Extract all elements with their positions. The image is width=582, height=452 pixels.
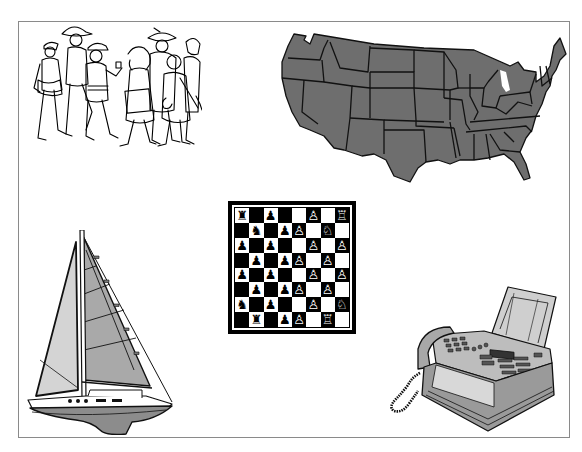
sailboat-illustration: [26, 230, 178, 435]
chess-square: ♙: [335, 268, 349, 283]
chess-piece-icon: ♙: [308, 239, 320, 252]
chess-square: [306, 282, 320, 297]
chess-square: [235, 282, 249, 297]
chess-piece-icon: ♘: [336, 298, 348, 311]
chess-square: ♜: [249, 312, 263, 327]
chess-square: [321, 297, 335, 312]
chess-piece-icon: ♟: [251, 254, 263, 267]
chess-square: [292, 297, 306, 312]
chess-square: ♜: [235, 208, 249, 223]
chess-square: [249, 268, 263, 283]
chess-piece-icon: ♟: [265, 239, 277, 252]
chess-piece-icon: ♟: [236, 268, 248, 281]
chess-square: ♖: [321, 312, 335, 327]
chess-square: ♟: [235, 268, 249, 283]
chess-piece-icon: ♙: [308, 209, 320, 222]
chess-piece-icon: ♟: [265, 298, 277, 311]
chess-square: [264, 282, 278, 297]
chess-square: [306, 253, 320, 268]
chessboard-grid: ♜♟♙♖♞♟♙♘♟♟♙♙♟♟♙♙♟♟♙♙♟♟♙♙♞♟♙♘♜♟♙♖: [234, 207, 350, 328]
chess-square: ♙: [306, 297, 320, 312]
chess-piece-icon: ♟: [236, 239, 248, 252]
chess-square: [321, 208, 335, 223]
chess-piece-icon: ♙: [308, 268, 320, 281]
chess-square: ♙: [292, 282, 306, 297]
people-illustration: [30, 24, 202, 152]
chess-piece-icon: ♙: [293, 224, 305, 237]
chess-square: ♟: [264, 208, 278, 223]
chess-square: ♙: [306, 208, 320, 223]
chess-square: ♟: [264, 297, 278, 312]
chess-square: [249, 208, 263, 223]
chess-square: ♟: [235, 238, 249, 253]
chess-square: ♟: [278, 223, 292, 238]
chess-piece-icon: ♟: [279, 224, 291, 237]
chess-square: ♟: [249, 282, 263, 297]
chess-square: [278, 208, 292, 223]
chess-piece-icon: ♙: [293, 283, 305, 296]
chess-square: ♖: [335, 208, 349, 223]
chess-square: [278, 297, 292, 312]
chess-piece-icon: ♟: [279, 283, 291, 296]
chess-square: ♟: [278, 312, 292, 327]
chess-square: ♙: [292, 312, 306, 327]
chess-square: [278, 268, 292, 283]
chess-square: [306, 312, 320, 327]
chess-square: ♟: [278, 253, 292, 268]
chess-square: [235, 312, 249, 327]
chess-square: [292, 238, 306, 253]
chess-square: ♟: [264, 238, 278, 253]
chess-square: [335, 312, 349, 327]
chess-piece-icon: ♙: [322, 254, 334, 267]
chessboard-illustration: ♜♟♙♖♞♟♙♘♟♟♙♙♟♟♙♙♟♟♙♙♟♟♙♙♞♟♙♘♜♟♙♖: [228, 201, 356, 334]
chess-piece-icon: ♙: [322, 283, 334, 296]
chess-square: [278, 238, 292, 253]
chess-piece-icon: ♜: [236, 209, 248, 222]
fax-machine-illustration: [388, 283, 558, 435]
chess-square: [235, 253, 249, 268]
chess-square: ♙: [306, 238, 320, 253]
chess-square: ♞: [249, 223, 263, 238]
chess-piece-icon: ♙: [293, 313, 305, 326]
chess-square: ♙: [321, 253, 335, 268]
chess-square: ♘: [321, 223, 335, 238]
chess-square: [292, 268, 306, 283]
chess-square: [335, 223, 349, 238]
chess-square: ♙: [292, 253, 306, 268]
us-map-illustration: [274, 26, 568, 186]
chess-piece-icon: ♟: [279, 313, 291, 326]
chess-square: ♟: [278, 282, 292, 297]
chess-square: ♘: [335, 297, 349, 312]
chess-piece-icon: ♙: [336, 239, 348, 252]
chess-square: [335, 253, 349, 268]
chess-square: ♟: [249, 253, 263, 268]
chess-square: ♟: [264, 268, 278, 283]
chess-piece-icon: ♜: [251, 313, 263, 326]
chess-piece-icon: ♘: [322, 224, 334, 237]
chess-piece-icon: ♙: [336, 268, 348, 281]
chess-square: ♙: [306, 268, 320, 283]
chess-piece-icon: ♞: [236, 298, 248, 311]
chess-square: ♞: [235, 297, 249, 312]
chess-piece-icon: ♙: [308, 298, 320, 311]
chess-square: [249, 297, 263, 312]
chess-square: ♙: [335, 238, 349, 253]
chess-square: ♙: [292, 223, 306, 238]
chess-piece-icon: ♟: [251, 283, 263, 296]
chess-piece-icon: ♙: [293, 254, 305, 267]
chess-piece-icon: ♖: [336, 209, 348, 222]
chess-square: [264, 253, 278, 268]
chess-square: [306, 223, 320, 238]
chess-square: [321, 238, 335, 253]
chess-square: [264, 223, 278, 238]
chess-square: [335, 282, 349, 297]
chess-square: ♙: [321, 282, 335, 297]
chess-piece-icon: ♖: [322, 313, 334, 326]
chess-square: [321, 268, 335, 283]
chess-piece-icon: ♟: [265, 209, 277, 222]
chess-square: [264, 312, 278, 327]
chess-square: [292, 208, 306, 223]
chess-square: [249, 238, 263, 253]
chess-piece-icon: ♟: [279, 254, 291, 267]
chess-piece-icon: ♞: [251, 224, 263, 237]
